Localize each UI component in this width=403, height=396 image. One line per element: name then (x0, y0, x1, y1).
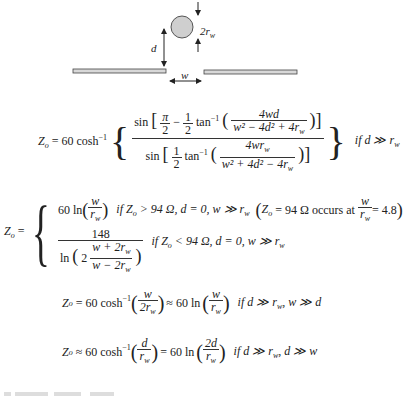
right-ground-plate (204, 70, 297, 74)
equation-3: Zo = 60 cosh−1 ( w2rw ) ≈ 60 ln ( wrw ) … (62, 288, 321, 318)
eq1-main-fraction: sin [ π2 − 12 tan−1 ( 4wdw² − 4d² + 4rw … (132, 108, 323, 175)
diameter-label: 2rw (200, 25, 215, 40)
height-label: d (151, 42, 157, 54)
cropped-text-line (0, 392, 366, 396)
wire-circle (171, 16, 193, 38)
equation-2: Zo = { 60 ln ( wrw ) if Zo > 94 Ω, d = 0… (4, 190, 403, 274)
equation-4: Zo ≈ 60 cosh−1 ( drw ) = 60 ln ( 2drw ) … (62, 337, 317, 367)
equation-1: Zo = 60 cosh−1 { sin [ π2 − 12 tan−1 ( 4… (38, 108, 399, 175)
eq2-case-2: 148 ln ( 2 w + 2rww − 2rw ) if Zo < 94 Ω… (58, 230, 403, 274)
gap-label: w (181, 69, 188, 81)
eq2-case-1: 60 ln ( wrw ) if Zo > 94 Ω, d = 0, w ≫ r… (58, 190, 403, 230)
left-ground-plate (73, 69, 166, 73)
